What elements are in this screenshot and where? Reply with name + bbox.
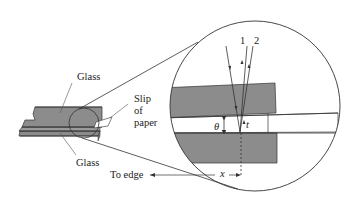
label-theta: θ — [214, 121, 219, 132]
label-glass-bottom: Glass — [76, 157, 99, 168]
label-to-edge: To edge — [110, 169, 144, 180]
label-glass-top: Glass — [77, 71, 100, 82]
air-wedge-diagram: Glass Glass Slip of paper To edge 1 2 θ — [0, 0, 357, 202]
label-x: x — [219, 168, 225, 179]
label-of: of — [134, 105, 143, 116]
label-ray-1: 1 — [240, 35, 245, 46]
label-paper: paper — [134, 117, 158, 128]
label-slip: Slip — [134, 93, 151, 104]
label-ray-2: 2 — [254, 35, 259, 46]
